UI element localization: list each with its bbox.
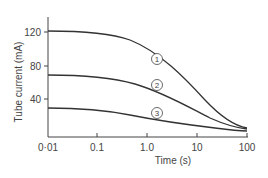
y-tick-label: 40 (30, 94, 42, 105)
marker-3: 3 (152, 108, 163, 119)
chart-svg: 120 80 40 0·01 0.1 1.0 10 100 Time (s) T… (0, 0, 268, 178)
marker-1: 1 (152, 54, 163, 65)
y-tick-label: 120 (24, 27, 41, 38)
x-tick-label: 10 (191, 142, 203, 153)
y-axis-label: Tube current (mA) (13, 42, 24, 123)
curve-1 (48, 31, 247, 128)
x-tick-label: 0.1 (90, 142, 104, 153)
x-tick-label: 0·01 (38, 142, 58, 153)
x-tick-label: 1.0 (140, 142, 154, 153)
marker-2: 2 (152, 80, 163, 91)
x-tick-label: 100 (239, 142, 256, 153)
svg-text:2: 2 (155, 81, 160, 90)
tube-current-chart: 120 80 40 0·01 0.1 1.0 10 100 Time (s) T… (0, 0, 268, 178)
svg-text:3: 3 (155, 109, 160, 118)
x-axis-label: Time (s) (155, 155, 191, 166)
y-tick-label: 80 (30, 61, 42, 72)
svg-text:1: 1 (155, 55, 160, 64)
curve-2 (48, 75, 247, 129)
